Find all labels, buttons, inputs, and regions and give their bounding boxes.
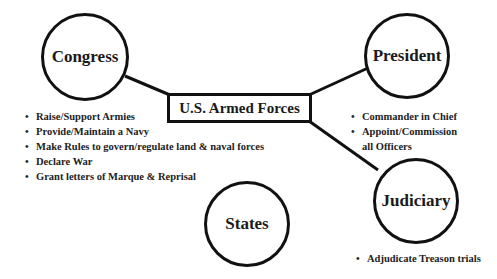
list-item: Grant letters of Marque & Reprisal — [24, 169, 264, 184]
node-congress: Congress — [41, 13, 129, 101]
node-president: President — [364, 13, 450, 99]
list-item: Adjudicate Treason trials — [355, 251, 497, 266]
list-item: Provide/Maintain a Navy — [24, 124, 264, 139]
node-label-congress: Congress — [52, 47, 119, 67]
president-powers-list: Commander in Chief Appoint/Commission al… — [350, 109, 470, 154]
connector-congress — [125, 76, 170, 95]
node-label-states: States — [225, 214, 268, 234]
node-states: States — [204, 181, 290, 267]
node-label-president: President — [373, 46, 442, 66]
list-item: Appoint/Commission all Officers — [350, 124, 470, 154]
list-item: Declare War — [24, 154, 264, 169]
node-judiciary: Judiciary — [373, 158, 459, 244]
judiciary-powers-list: Adjudicate Treason trials — [355, 251, 497, 266]
list-item: Make Rules to govern/regulate land & nav… — [24, 139, 264, 154]
congress-powers-list: Raise/Support Armies Provide/Maintain a … — [24, 109, 264, 184]
list-item: Raise/Support Armies — [24, 109, 264, 124]
node-label-judiciary: Judiciary — [382, 191, 451, 211]
connector-president — [309, 68, 368, 95]
list-item: Commander in Chief — [350, 109, 470, 124]
